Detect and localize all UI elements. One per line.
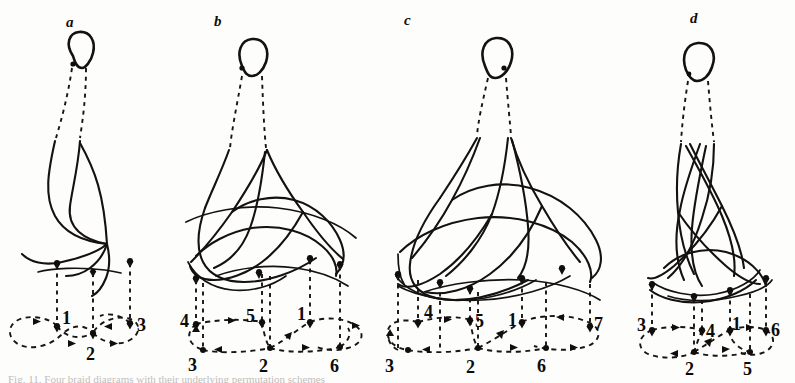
panel-b-perm-node-2 xyxy=(267,345,273,351)
figure-canvas: a xyxy=(0,0,795,383)
panel-b-letter: b xyxy=(214,13,222,29)
panel-a-letter: a xyxy=(66,14,74,30)
panel-d-label-6: 6 xyxy=(771,320,780,340)
panel-a-label-3: 3 xyxy=(137,315,146,335)
panel-b-perm-node-3 xyxy=(200,347,206,353)
panel-b-label-3: 3 xyxy=(188,355,197,375)
braid-figure: a xyxy=(0,0,795,383)
panel-b-label-6: 6 xyxy=(330,356,339,376)
panel-c-label-4: 4 xyxy=(424,302,433,322)
panel-d-label-4: 4 xyxy=(706,321,715,341)
figure-background xyxy=(0,0,795,383)
panel-d-label-3: 3 xyxy=(637,315,646,335)
panel-a-label-1: 1 xyxy=(62,308,71,328)
panel-b-perm-node-6 xyxy=(337,344,343,350)
panel-b-label-1: 1 xyxy=(297,304,306,324)
panel-a-head-node xyxy=(70,61,75,66)
panel-d-head-node xyxy=(687,72,692,77)
panel-a-label-2: 2 xyxy=(86,344,95,364)
panel-d-letter: d xyxy=(690,10,698,26)
panel-c-label-7: 7 xyxy=(594,314,603,334)
panel-c-perm-node-6 xyxy=(543,345,549,351)
panel-b-label-5: 5 xyxy=(246,306,255,326)
panel-d-label-1: 1 xyxy=(732,314,741,334)
panel-b-head-node xyxy=(239,65,244,70)
caption-strip: Fig. 11. Four braid diagrams with their … xyxy=(0,374,795,383)
panel-b-label-4: 4 xyxy=(180,311,189,331)
panel-d-perm-node-5 xyxy=(747,349,753,355)
panel-c-label-6: 6 xyxy=(537,356,546,376)
panel-b-label-2: 2 xyxy=(259,356,268,376)
panel-c-label-1: 1 xyxy=(508,310,517,330)
panel-c-head-node xyxy=(501,65,506,70)
panel-c-letter: c xyxy=(404,12,411,28)
panel-d-perm-node-2 xyxy=(691,349,697,355)
panel-c-perm-node-2 xyxy=(475,345,481,351)
panel-c-perm-node-3 xyxy=(405,347,411,353)
figure-caption: Fig. 11. Four braid diagrams with their … xyxy=(0,374,795,383)
panel-c-label-3: 3 xyxy=(385,356,394,376)
panel-c-label-5: 5 xyxy=(475,311,484,331)
